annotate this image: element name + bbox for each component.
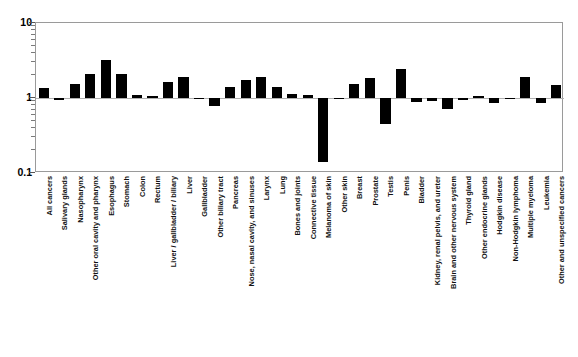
bar: [85, 74, 95, 98]
x-axis-label: Liver: [186, 176, 194, 194]
y-axis: 10 1 0.1: [0, 0, 32, 357]
baseline-at-one: [36, 98, 564, 99]
bar: [380, 98, 390, 124]
bar: [349, 84, 359, 98]
x-axis-label: Thyroid gland: [465, 176, 473, 225]
x-axis-label: Non-Hodgkin lymphoma: [512, 176, 520, 261]
x-axis-label: Colon: [139, 176, 147, 197]
x-axis-label: Other endocrine glands: [481, 176, 489, 259]
bar: [442, 98, 452, 109]
bar: [303, 95, 313, 98]
x-axis-label: Gallbladder: [201, 176, 209, 217]
bar: [132, 95, 142, 98]
x-axis-label: Connective tissue: [310, 176, 318, 239]
x-axis-label: Bones and joints: [294, 176, 302, 236]
bar: [427, 98, 437, 101]
x-axis-label: Breast: [356, 176, 364, 199]
x-axis-label: Kidney, renal pelvis, and ureter: [434, 176, 442, 285]
x-axis-label: Other biliary tract: [217, 176, 225, 238]
bar: [334, 98, 344, 99]
bar: [489, 98, 499, 103]
bar: [365, 78, 375, 98]
bar: [396, 69, 406, 98]
x-axis-label: Penis: [403, 176, 411, 196]
x-axis-label: Esophagus: [108, 176, 116, 216]
bar: [116, 74, 126, 98]
bar: [287, 94, 297, 98]
x-axis-label: Prostate: [372, 176, 380, 206]
bar: [209, 98, 219, 106]
x-axis-label: Other skin: [341, 176, 349, 213]
bar: [411, 98, 421, 102]
x-axis-label: Stomach: [123, 176, 131, 207]
x-axis-label: Other and unspecified cancers: [558, 176, 566, 284]
bar: [147, 96, 157, 98]
x-axis-label: Rectum: [154, 176, 162, 203]
bar: [520, 77, 530, 98]
x-axis-label: Hodgkin disease: [496, 176, 504, 235]
x-axis-label: Salivary glands: [61, 176, 69, 230]
bar: [473, 96, 483, 98]
x-axis-label: Nasopharynx: [77, 176, 85, 223]
x-axis-label: Other oral cavity and pharynx: [92, 176, 100, 280]
bar: [551, 85, 561, 98]
bar: [101, 60, 111, 98]
bar: [225, 87, 235, 98]
x-axis-label: Liver / gallbladder / biliary: [170, 176, 178, 267]
bar: [39, 88, 49, 98]
plot-area: [35, 22, 563, 172]
x-axis-label: Larynx: [263, 176, 271, 200]
bar: [178, 77, 188, 98]
bar: [505, 98, 515, 99]
x-axis-label: Leukemia: [543, 176, 551, 210]
x-axis-label: Melanoma of skin: [325, 176, 333, 238]
x-axis-label: Multiple myeloma: [527, 176, 535, 238]
bar: [70, 84, 80, 98]
bar: [458, 98, 468, 100]
x-axis-label: Bladder: [418, 176, 426, 204]
x-axis-label: Nose, nasal cavity, and sinuses: [248, 176, 256, 286]
bar: [194, 98, 204, 99]
bar: [318, 98, 328, 162]
x-axis-label: Lung: [279, 176, 287, 194]
y-tick-major: [29, 172, 35, 173]
bar-chart: 10 1 0.1 All cancersSalivary glandsNasop…: [0, 0, 578, 357]
x-axis-label: Brain and other nervous system: [450, 176, 458, 289]
bar: [272, 87, 282, 98]
bar: [54, 98, 64, 100]
bar: [241, 80, 251, 98]
bar: [256, 77, 266, 98]
x-axis-label: Pancreas: [232, 176, 240, 209]
x-axis-label: All cancers: [46, 176, 54, 215]
x-axis-labels: All cancersSalivary glandsNasopharynxOth…: [35, 176, 563, 357]
bar: [536, 98, 546, 103]
bar: [163, 82, 173, 98]
x-axis-label: Testis: [387, 176, 395, 197]
